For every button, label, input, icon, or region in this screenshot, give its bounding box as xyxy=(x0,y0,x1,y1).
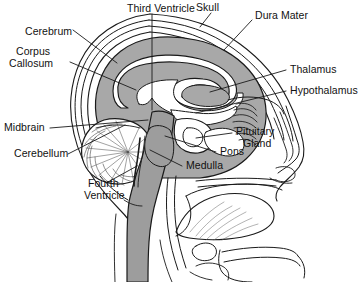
neck-back xyxy=(114,214,116,282)
label-corpus-callosum-line2: Callosum xyxy=(9,58,53,70)
mandible-body xyxy=(219,250,252,282)
epiglottis xyxy=(192,243,216,261)
label-corpus-callosum-line1: Corpus xyxy=(16,46,50,58)
label-thalamus: Thalamus xyxy=(290,64,337,76)
label-pons: Pons xyxy=(220,146,244,158)
hard-palate-upper xyxy=(196,178,276,181)
label-pituitary-gland-line2: Gland xyxy=(243,138,271,150)
mandible-upper xyxy=(222,247,298,256)
label-midbrain: Midbrain xyxy=(4,122,45,134)
label-hypothalamus: Hypothalamus xyxy=(290,85,358,97)
pons-bulge xyxy=(145,126,174,167)
neck-front xyxy=(160,240,172,282)
label-fourth-ventricle-line1: Fourth xyxy=(88,178,119,190)
chin-profile xyxy=(298,256,305,278)
label-skull: Skull xyxy=(196,2,219,14)
label-fourth-ventricle-line2: Ventricle xyxy=(84,190,125,202)
pharynx-wall-1 xyxy=(167,178,179,270)
label-pituitary-gland-line1: Pituitary xyxy=(236,126,274,138)
mandible-lower xyxy=(224,257,300,266)
label-medulla: Medulla xyxy=(186,160,223,172)
label-third-ventricle: Third Ventricle xyxy=(127,3,195,15)
leader-dura-mater xyxy=(224,20,252,50)
label-dura-mater: Dura Mater xyxy=(255,10,308,22)
label-cerebrum: Cerebrum xyxy=(25,26,72,38)
nose-inner-1 xyxy=(280,112,293,161)
trachea-wall xyxy=(190,272,212,280)
label-cerebellum: Cerebellum xyxy=(14,148,68,160)
